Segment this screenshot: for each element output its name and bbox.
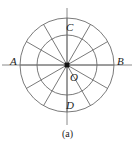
label-C: C bbox=[66, 22, 73, 33]
spoke-120 bbox=[44, 24, 68, 65]
label-O-origin: O bbox=[70, 72, 78, 83]
spoke-240 bbox=[44, 65, 68, 106]
label-B: B bbox=[117, 56, 124, 67]
center-point-marker bbox=[65, 63, 70, 68]
label-A: A bbox=[10, 56, 17, 67]
figure-caption: (a) bbox=[0, 128, 135, 139]
spoke-210 bbox=[26, 65, 67, 89]
spoke-30 bbox=[67, 42, 108, 66]
spoke-150 bbox=[26, 42, 67, 66]
label-D: D bbox=[66, 100, 74, 111]
figure-container: A B C D O (a) bbox=[0, 0, 135, 149]
